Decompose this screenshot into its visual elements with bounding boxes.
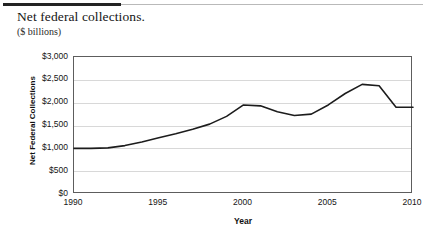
- top-rule-thick: [3, 3, 121, 6]
- x-axis-tick-label: 2005: [302, 197, 352, 207]
- x-axis-tick-label: 2000: [218, 197, 268, 207]
- series-line-net-federal-collections: [74, 84, 413, 148]
- plot-area: [73, 56, 412, 193]
- y-axis-tick-label: $1,000: [8, 142, 68, 152]
- x-axis-tick-label: 1995: [133, 197, 183, 207]
- y-axis-tick-label: $2,500: [8, 73, 68, 83]
- y-axis-tick-label: $0: [8, 188, 68, 198]
- chart-subtitle: ($ billions): [17, 26, 61, 37]
- y-axis-tick-label: $500: [8, 165, 68, 175]
- decorative-top-rule: [0, 2, 429, 7]
- y-axis-tick-label: $2,000: [8, 96, 68, 106]
- x-axis-tick-label: 1990: [48, 197, 98, 207]
- chart-title: Net federal collections.: [17, 9, 145, 25]
- x-axis-tick-label: 2010: [387, 197, 429, 207]
- y-axis-tick-label: $3,000: [8, 51, 68, 61]
- y-axis-tick-label: $1,500: [8, 119, 68, 129]
- series-line-chart: [74, 57, 413, 194]
- x-axis-title: Year: [73, 216, 413, 226]
- top-rule-thin: [121, 4, 423, 5]
